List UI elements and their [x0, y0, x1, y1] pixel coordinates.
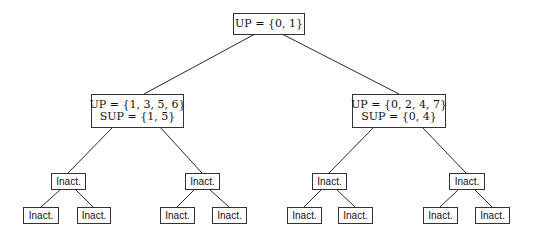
- left-sup-set: SUP = {1, 5}: [100, 111, 175, 123]
- node-label: Inact.: [292, 210, 316, 222]
- leaf-node: Inact.: [423, 207, 458, 224]
- tree-edges: [0, 0, 533, 239]
- leaf-node: Inact.: [287, 207, 322, 224]
- tree-diagram: UP = {0, 1} UP = {1, 3, 5, 6} SUP = {1, …: [0, 0, 533, 239]
- node-label: Inact.: [82, 210, 106, 222]
- level3-node: Inact.: [185, 173, 220, 190]
- node-label: Inact.: [56, 176, 80, 188]
- leaf-node: Inact.: [212, 207, 247, 224]
- right-sup-set: SUP = {0, 4}: [361, 111, 436, 123]
- leaf-node: Inact.: [338, 207, 373, 224]
- leaf-node: Inact.: [475, 207, 510, 224]
- leaf-node: Inact.: [77, 207, 111, 224]
- node-label: Inact.: [317, 176, 341, 188]
- node-label: Inact.: [480, 210, 504, 222]
- level3-node: Inact.: [51, 173, 86, 190]
- right-mid-node: UP = {0, 2, 4, 7} SUP = {0, 4}: [352, 94, 446, 128]
- node-label: Inact.: [165, 210, 189, 222]
- node-label: Inact.: [343, 210, 367, 222]
- node-label: Inact.: [455, 176, 479, 188]
- node-label: Inact.: [190, 176, 214, 188]
- node-label: Inact.: [217, 210, 241, 222]
- root-up-set: UP = {0, 1}: [235, 18, 303, 30]
- node-label: Inact.: [428, 210, 452, 222]
- leaf-node: Inact.: [23, 207, 59, 224]
- level3-node: Inact.: [449, 173, 485, 190]
- node-label: Inact.: [29, 210, 53, 222]
- leaf-node: Inact.: [160, 207, 195, 224]
- left-mid-node: UP = {1, 3, 5, 6} SUP = {1, 5}: [91, 94, 184, 128]
- level3-node: Inact.: [312, 173, 347, 190]
- root-node: UP = {0, 1}: [233, 13, 305, 35]
